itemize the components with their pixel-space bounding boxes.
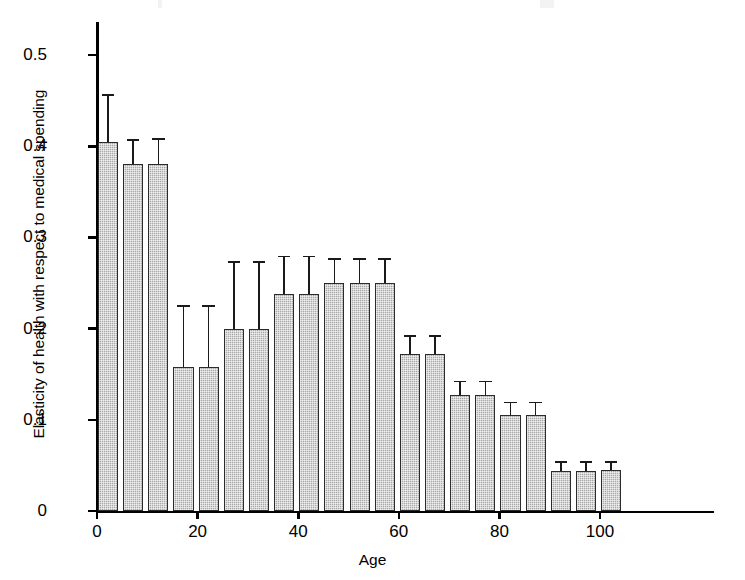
error-bar <box>485 381 487 396</box>
bar <box>249 329 269 511</box>
error-bar <box>283 256 285 294</box>
error-bar-cap <box>529 402 541 404</box>
error-bar-cap <box>253 261 265 263</box>
error-bar-cap <box>605 461 617 463</box>
x-tick-mark <box>498 511 501 519</box>
x-tick-mark <box>196 511 199 519</box>
bar <box>199 367 219 511</box>
error-bar <box>107 94 109 141</box>
bar <box>475 395 495 511</box>
x-tick-label: 80 <box>469 523 529 541</box>
error-bar <box>535 402 537 416</box>
bar <box>98 142 118 511</box>
y-tick-label: 0.5 <box>0 46 47 63</box>
y-tick-label: 0.3 <box>0 228 47 245</box>
error-bar <box>334 258 336 283</box>
bar <box>500 415 520 511</box>
x-tick-label: 20 <box>168 523 228 541</box>
bar <box>173 367 193 511</box>
error-bar-cap <box>102 94 114 96</box>
y-tick-label: 0.2 <box>0 320 47 337</box>
bar <box>375 283 395 511</box>
error-bar-cap <box>177 305 189 307</box>
x-tick-mark <box>599 511 602 519</box>
error-bar-cap <box>228 261 240 263</box>
y-axis-label: Elasticity of health with respect to med… <box>26 4 52 524</box>
bar <box>425 354 445 511</box>
bar <box>274 294 294 511</box>
chart-figure: Elasticity of health with respect to med… <box>0 0 745 580</box>
error-bar <box>510 402 512 416</box>
error-bar <box>233 261 235 328</box>
cropped-title-artifact <box>150 0 600 8</box>
x-tick-label: 60 <box>369 523 429 541</box>
x-tick-label: 40 <box>268 523 328 541</box>
error-bar <box>158 138 160 164</box>
bar <box>350 283 370 511</box>
bar <box>299 294 319 511</box>
error-bar-cap <box>353 258 365 260</box>
error-bar-cap <box>454 381 466 383</box>
error-bar-cap <box>504 402 516 404</box>
y-tick-label: 0 <box>0 502 47 519</box>
bar <box>526 415 546 511</box>
x-axis-label: Age <box>0 551 745 569</box>
error-bar <box>459 381 461 396</box>
error-bar <box>434 335 436 354</box>
x-tick-mark <box>297 511 300 519</box>
y-tick-mark <box>88 54 97 57</box>
error-bar-cap <box>303 256 315 258</box>
x-tick-label: 0 <box>67 523 127 541</box>
y-tick-mark <box>88 236 97 239</box>
y-tick-mark <box>88 327 97 330</box>
error-bar-cap <box>555 461 567 463</box>
y-tick-mark <box>88 145 97 148</box>
error-bar-cap <box>429 335 441 337</box>
error-bar-cap <box>404 335 416 337</box>
bar <box>450 395 470 511</box>
x-tick-mark <box>96 511 99 519</box>
bar <box>576 471 596 511</box>
error-bar <box>132 139 134 164</box>
error-bar-cap <box>152 138 164 140</box>
bar <box>224 329 244 511</box>
bar <box>324 283 344 511</box>
error-bar <box>409 335 411 354</box>
y-tick-label: 0.1 <box>0 411 47 428</box>
bar <box>551 471 571 511</box>
bar <box>601 470 621 511</box>
bar <box>400 354 420 511</box>
error-bar-cap <box>580 461 592 463</box>
x-tick-mark <box>398 511 401 519</box>
error-bar <box>183 305 185 367</box>
error-bar-cap <box>202 305 214 307</box>
error-bar-cap <box>278 256 290 258</box>
y-tick-mark <box>88 419 97 422</box>
error-bar-cap <box>378 258 390 260</box>
error-bar-cap <box>328 258 340 260</box>
error-bar <box>359 258 361 283</box>
bar <box>123 164 143 511</box>
error-bar <box>384 258 386 283</box>
error-bar <box>208 305 210 367</box>
error-bar-cap <box>127 139 139 141</box>
error-bar-cap <box>479 381 491 383</box>
error-bar <box>308 256 310 294</box>
y-tick-label: 0.4 <box>0 137 47 154</box>
bar <box>148 164 168 511</box>
x-tick-label: 100 <box>570 523 630 541</box>
error-bar <box>258 261 260 328</box>
